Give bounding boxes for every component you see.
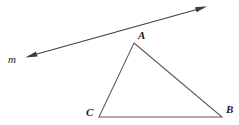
vertex-label-b: B [226,104,233,115]
line-m-arrowhead-right-icon [195,6,207,12]
vertex-label-c: C [86,107,93,118]
triangle-abc-group [99,43,222,117]
vertex-label-a: A [138,30,145,41]
geometry-figure-svg [0,0,239,125]
line-label-m: m [8,54,16,65]
line-m-shaft [28,8,204,57]
geometry-figure-canvas: A B C m [0,0,239,125]
line-m-group [26,6,208,57]
line-m-arrowhead-left-icon [26,52,38,58]
triangle-abc-outline [99,43,222,117]
